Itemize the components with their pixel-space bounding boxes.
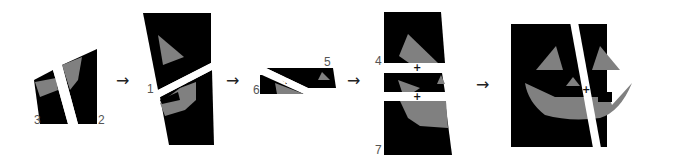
arrow-4: → [476, 75, 489, 94]
label-2: 2 [98, 113, 105, 127]
plus-marker: + [413, 62, 421, 73]
plus-marker: + [413, 91, 421, 102]
stage-4: + + 4 7 [375, 12, 452, 157]
stage-2: + 1 [143, 13, 214, 145]
stage-3: + 5 6 [253, 55, 336, 97]
arrow-2: → [226, 71, 239, 90]
label-6: 6 [253, 83, 260, 97]
label-1: 1 [147, 82, 154, 96]
diagram-canvas: + 3 2 → + 1 → + 5 6 → + + 4 7 → [0, 0, 679, 161]
stage-5: + [511, 22, 632, 148]
label-7: 7 [375, 143, 382, 157]
mouth-tooth [598, 92, 612, 102]
arrow-1: → [116, 71, 129, 90]
plus-marker: + [582, 84, 590, 95]
label-5: 5 [324, 55, 331, 69]
label-3: 3 [34, 113, 41, 127]
label-4: 4 [375, 54, 382, 68]
arrow-3: → [347, 71, 360, 90]
